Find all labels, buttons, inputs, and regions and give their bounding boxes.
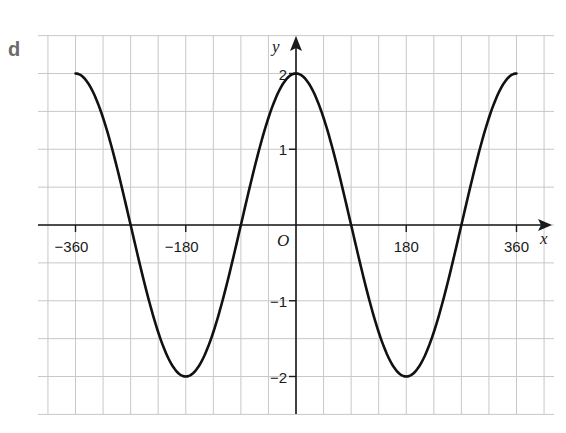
x-tick-label: 180 [394, 238, 419, 255]
x-tick-label: −180 [165, 238, 199, 255]
origin-label: O [277, 231, 289, 250]
cosine-graph: d x y O −360−18018036021−1−2 [0, 0, 566, 433]
axes: x y O [38, 36, 552, 414]
x-axis-label: x [539, 229, 548, 248]
x-tick-label: 360 [504, 238, 529, 255]
y-tick-label: 1 [279, 141, 287, 158]
part-label: d [8, 38, 20, 60]
x-tick-label: −360 [55, 238, 89, 255]
y-tick-label: −2 [270, 369, 287, 386]
y-axis-label: y [270, 37, 280, 56]
y-tick-label: −1 [270, 293, 287, 310]
